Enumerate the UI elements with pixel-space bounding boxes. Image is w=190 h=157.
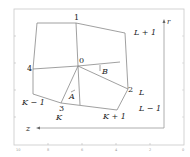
mesh-diagram: 10 8 6 4 2 0 r z 1 0 4 3 2 B A L + 1 L L… — [0, 0, 190, 157]
region-label-L: L — [138, 88, 144, 97]
region-label-K-plus-1: K + 1 — [102, 112, 126, 121]
vector-A-line — [78, 66, 80, 105]
z-axis-label: z — [25, 124, 31, 133]
r-axis-label: r — [167, 18, 171, 26]
edge-0-4 — [33, 66, 78, 69]
region-label-K-minus-1: K − 1 — [21, 98, 45, 107]
vertex-label-1: 1 — [74, 13, 79, 22]
cell-boundary — [33, 23, 128, 110]
vertex-label-2: 2 — [128, 85, 133, 94]
x-tick-label-0: 10 — [16, 148, 20, 152]
vertex-label-0: 0 — [79, 56, 84, 65]
x-tick-label-4: 2 — [149, 148, 151, 152]
plot-frame — [14, 9, 184, 145]
region-label-K: K — [55, 113, 63, 122]
x-tick-label-5: 0 — [182, 148, 184, 152]
vector-label-A: A — [68, 92, 75, 101]
region-label-L-minus-1: L − 1 — [138, 104, 161, 113]
edge-0-1 — [76, 23, 78, 66]
vector-label-B: B — [101, 67, 108, 76]
vertex-label-4: 4 — [27, 64, 32, 73]
x-tick-label-3: 4 — [115, 148, 118, 152]
x-tick-label-2: 6 — [81, 148, 83, 152]
x-tick-label-1: 8 — [47, 148, 49, 152]
vector-B-line — [78, 62, 120, 66]
region-label-L-plus-1: L + 1 — [133, 28, 156, 37]
z-axis-arrow-icon — [36, 127, 40, 130]
vertex-label-3: 3 — [59, 104, 64, 113]
r-axis-arrow-icon — [163, 19, 166, 23]
